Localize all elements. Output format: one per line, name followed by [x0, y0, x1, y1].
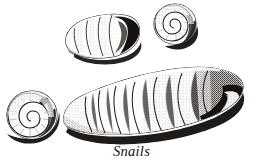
snails-engraving	[0, 0, 263, 167]
illustration-plate	[0, 0, 263, 167]
figure-caption: Snails	[0, 143, 263, 159]
